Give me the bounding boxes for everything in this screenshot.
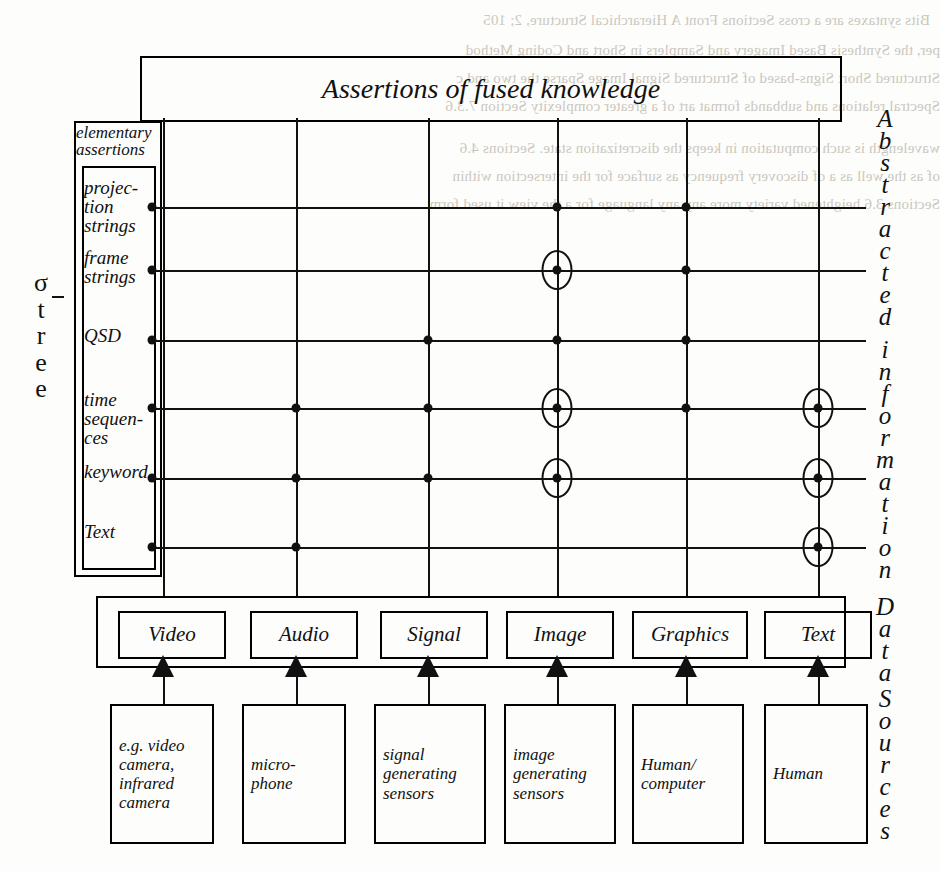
- bleed-line: of as the well as a of discovery frequen…: [30, 168, 940, 185]
- row-label-projection-strings: projec-tionstrings: [80, 178, 156, 235]
- source-box-video-source[interactable]: e.g. video camera, infrared camera: [110, 704, 214, 844]
- source-label-video-source: e.g. video camera, infrared camera: [119, 736, 205, 812]
- axis-letter: n: [868, 559, 902, 581]
- source-box-audio-source[interactable]: micro-phone: [242, 704, 346, 844]
- source-label-audio-source: micro-phone: [251, 755, 337, 793]
- source-label-signal-source: signal generating sensors: [383, 745, 477, 802]
- source-stem-graphics: [686, 676, 688, 704]
- row-label-line: strings: [84, 267, 156, 286]
- sigma-letter-0: σ: [26, 270, 56, 297]
- mark-dot-graphics-qsd: [682, 336, 691, 345]
- mark-dot-signal-keyword: [424, 474, 433, 483]
- mark-dot-image-frame-strings: [553, 266, 562, 275]
- row-origin-marker-qsd: [148, 336, 157, 345]
- data-type-box-signal[interactable]: Signal: [380, 611, 488, 659]
- row-origin-marker-frame-strings: [148, 266, 157, 275]
- sigma-letter-1: t: [26, 297, 56, 324]
- data-type-box-graphics[interactable]: Graphics: [632, 611, 748, 659]
- row-origin-marker-text: [148, 543, 157, 552]
- mark-dot-audio-time-sequences: [292, 404, 301, 413]
- row-label-line: keyword: [84, 462, 156, 481]
- mark-dot-audio-keyword: [292, 474, 301, 483]
- data-type-box-video[interactable]: Video: [118, 611, 226, 659]
- source-stem-audio: [296, 676, 298, 704]
- row-label-line: frame: [84, 248, 156, 267]
- data-type-label-video: Video: [148, 623, 195, 647]
- row-label-line: sequen-: [84, 409, 156, 428]
- grid-row-line-keyword: [152, 478, 866, 480]
- grid-row-line-projection-strings: [152, 207, 866, 209]
- source-stem-image: [557, 676, 559, 704]
- grid-col-line-audio: [296, 118, 298, 596]
- assertions-banner: Assertions of fused knowledge: [140, 56, 842, 122]
- axis-letter: a: [868, 662, 902, 684]
- row-label-line: Text: [84, 522, 156, 541]
- source-arrow-graphics: [675, 655, 697, 677]
- source-stem-text: [818, 676, 820, 704]
- row-label-qsd: QSD: [80, 326, 156, 345]
- grid-col-line-signal: [428, 118, 430, 596]
- row-label-line: tion: [84, 197, 156, 216]
- grid-row-line-frame-strings: [152, 270, 866, 272]
- elementary-assertions-label: elementary assertions: [76, 124, 158, 159]
- sigma-tree-connector: [52, 296, 64, 298]
- data-type-box-image[interactable]: Image: [506, 611, 614, 659]
- data-type-box-text[interactable]: Text: [764, 611, 872, 659]
- row-origin-marker-time-sequences: [148, 404, 157, 413]
- grid-row-line-text: [152, 547, 866, 549]
- mark-dot-image-qsd: [553, 336, 562, 345]
- data-type-label-audio: Audio: [279, 623, 329, 647]
- axis-letter: s: [868, 820, 902, 842]
- row-label-line: QSD: [84, 326, 156, 345]
- grid-col-line-image: [557, 118, 559, 596]
- mark-dot-image-projection-strings: [553, 203, 562, 212]
- row-label-text: Text: [80, 522, 156, 541]
- row-label-line: projec-: [84, 178, 156, 197]
- data-type-label-text: Text: [801, 623, 835, 647]
- source-arrow-text: [807, 655, 829, 677]
- source-arrow-audio: [285, 655, 307, 677]
- source-box-text-source[interactable]: Human: [764, 704, 868, 844]
- sources-axis-label: Sources: [868, 688, 902, 842]
- data-type-label-image: Image: [534, 623, 586, 647]
- mark-dot-graphics-time-sequences: [682, 404, 691, 413]
- row-origin-marker-keyword: [148, 474, 157, 483]
- abstracted-information-axis-label: Abstracted information: [868, 108, 902, 581]
- sigma-letter-2: r: [26, 323, 56, 350]
- mark-dot-graphics-frame-strings: [682, 266, 691, 275]
- data-type-label-signal: Signal: [407, 623, 461, 647]
- grid-col-line-graphics: [686, 118, 688, 596]
- row-label-line: time: [84, 390, 156, 409]
- data-type-box-audio[interactable]: Audio: [250, 611, 358, 659]
- row-label-frame-strings: framestrings: [80, 248, 156, 286]
- assertions-banner-label: Assertions of fused knowledge: [322, 73, 660, 104]
- row-label-keyword: keyword: [80, 462, 156, 481]
- mark-dot-image-keyword: [553, 474, 562, 483]
- mark-dot-graphics-projection-strings: [682, 203, 691, 212]
- source-box-graphics-source[interactable]: Human/ computer: [632, 704, 744, 844]
- source-label-image-source: image generating sensors: [513, 745, 607, 802]
- row-origin-marker-projection-strings: [148, 203, 157, 212]
- mark-dot-audio-text: [292, 543, 301, 552]
- source-stem-video: [163, 676, 165, 704]
- source-box-signal-source[interactable]: signal generating sensors: [374, 704, 486, 844]
- sigma-tree-label: σ t r e e: [26, 270, 56, 403]
- grid-col-line-video: [163, 118, 165, 596]
- row-label-time-sequences: timesequen-ces: [80, 390, 156, 447]
- sigma-letter-3: e: [26, 350, 56, 377]
- bleed-line: Sections 3.6 heightened variety more any…: [30, 196, 940, 213]
- source-arrow-image: [546, 655, 568, 677]
- mark-dot-text-text: [814, 543, 823, 552]
- mark-dot-text-keyword: [814, 474, 823, 483]
- source-box-image-source[interactable]: image generating sensors: [504, 704, 616, 844]
- source-label-graphics-source: Human/ computer: [641, 755, 735, 793]
- grid-row-line-time-sequences: [152, 408, 866, 410]
- row-label-line: strings: [84, 216, 156, 235]
- sigma-letter-4: e: [26, 376, 56, 403]
- row-label-line: ces: [84, 428, 156, 447]
- data-type-label-graphics: Graphics: [651, 623, 729, 647]
- source-arrow-signal: [417, 655, 439, 677]
- source-label-text-source: Human: [773, 764, 859, 783]
- mark-dot-signal-time-sequences: [424, 404, 433, 413]
